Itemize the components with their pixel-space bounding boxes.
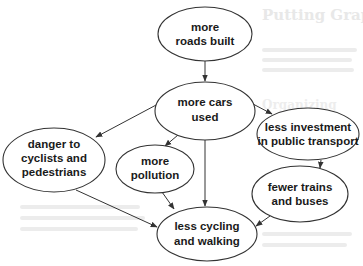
node-label: and buses: [272, 195, 329, 207]
node-label: more cars: [178, 96, 233, 108]
node-less-investment: less investment in public transport: [257, 108, 359, 160]
edge-pollution-to-cycling: [162, 192, 174, 209]
node-label: danger to: [28, 138, 80, 150]
edge-trains-to-cycling: [256, 216, 270, 226]
edge-danger-to-cycling: [76, 190, 157, 227]
node-less-cycling: less cycling and walking: [157, 207, 257, 261]
node-label: pedestrians: [22, 166, 87, 178]
node-label: more: [141, 155, 169, 167]
node-label: pollution: [131, 169, 180, 181]
node-label: less investment: [265, 121, 351, 133]
node-fewer-trains: fewer trains and buses: [252, 166, 348, 222]
node-label: fewer trains: [268, 181, 333, 193]
edge-cars-to-investment: [253, 104, 272, 114]
edge-investment-to-trains: [320, 160, 321, 168]
node-label: roads built: [176, 35, 235, 47]
edge-cars-to-danger: [96, 104, 158, 137]
node-danger-to-cyclists: danger to cyclists and pedestrians: [3, 128, 105, 192]
node-label: less cycling: [174, 220, 239, 232]
node-label: cyclists and: [21, 152, 87, 164]
node-label: used: [192, 111, 219, 123]
node-label: more: [191, 21, 219, 33]
node-label: in public transport: [258, 135, 359, 147]
node-more-pollution: more pollution: [116, 145, 194, 193]
node-label: and walking: [174, 235, 240, 247]
cause-effect-diagram: more roads built more cars used danger t…: [0, 0, 363, 266]
node-more-cars-used: more cars used: [155, 82, 255, 140]
edge-cars-to-pollution: [165, 135, 178, 146]
node-more-roads-built: more roads built: [158, 7, 252, 61]
